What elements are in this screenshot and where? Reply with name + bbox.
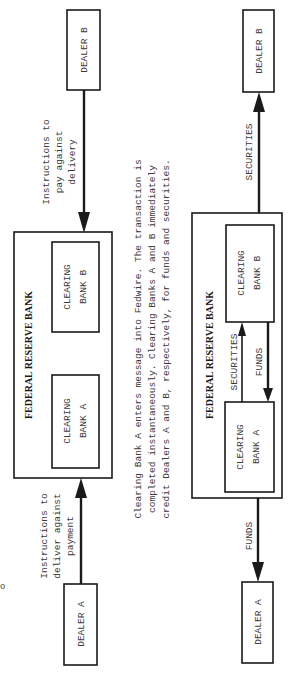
right-funds-label: FUNDS [254, 347, 265, 376]
left-diagram: DEALER B Instructions to pay against del… [14, 10, 112, 665]
right-funds-out-label: FUNDS [244, 521, 255, 550]
margin-mark: o [0, 582, 5, 592]
right-dealer-b-label: DEALER B [254, 28, 265, 74]
left-dealer-b-label: DEALER B [79, 27, 90, 73]
arrow-head-down-icon [263, 388, 273, 402]
fedwire-diagram: o DEALER B Instructions to pay against d… [0, 0, 288, 677]
left-bank-a-box [52, 375, 99, 468]
right-securities-label: SECURITIES [229, 333, 240, 390]
left-dealer-a-label: DEALER A [76, 601, 87, 647]
svg-text:BANK B: BANK B [78, 270, 89, 305]
arrow-head-up-icon [75, 478, 87, 498]
right-bank-b-box [226, 225, 274, 322]
arrow-head-down-icon [78, 212, 90, 233]
right-frb-title: FEDERAL RESERVE BANK [204, 291, 215, 419]
caption-line-1: Clearing Bank A enters message into Fedw… [133, 159, 144, 518]
svg-text:BANK A: BANK A [251, 430, 262, 465]
svg-text:CLEARING: CLEARING [235, 424, 246, 470]
right-diagram: DEALER B SECURITIES FEDERAL RESERVE BANK… [192, 10, 282, 663]
svg-text:BANK B: BANK B [252, 256, 263, 291]
arrow-head-up-icon [253, 92, 265, 112]
svg-text:Instructions to: Instructions to [39, 493, 50, 579]
caption-line-3: credit Dealers A and B, respectively, fo… [161, 159, 172, 518]
caption-line-2: completed instantaneously. Clearing Bank… [147, 165, 158, 513]
svg-text:Instructions to: Instructions to [41, 119, 52, 205]
caption: Clearing Bank A enters message into Fedw… [133, 159, 172, 518]
left-bank-b-box [52, 242, 99, 332]
left-instr-b-text: Instructions to pay against delivery [41, 119, 78, 205]
arrow-head-down-icon [252, 562, 264, 582]
right-securities-out-label: SECURITIES [244, 123, 255, 180]
svg-text:delivery: delivery [67, 139, 78, 185]
svg-text:CLEARING: CLEARING [62, 398, 73, 444]
svg-text:payment: payment [65, 516, 76, 556]
svg-text:BANK A: BANK A [78, 404, 89, 439]
svg-text:deliver against: deliver against [52, 493, 63, 579]
right-dealer-a-label: DEALER A [253, 599, 264, 645]
svg-text:CLEARING: CLEARING [62, 264, 73, 310]
left-frb-title: FEDERAL RESERVE BANK [23, 291, 34, 419]
svg-text:CLEARING: CLEARING [236, 250, 247, 296]
svg-text:pay against: pay against [54, 131, 65, 194]
right-bank-a-box [225, 402, 274, 492]
left-instr-a-text: Instructions to deliver against payment [39, 493, 76, 579]
